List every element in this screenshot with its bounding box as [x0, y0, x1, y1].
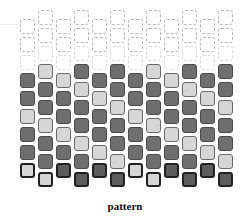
dark-cell: [182, 64, 197, 79]
light-cell: [164, 73, 179, 88]
dark-cell: [182, 100, 197, 115]
dark-cell: [20, 145, 35, 160]
dark-cell: [74, 154, 89, 169]
light-cell: [74, 82, 89, 97]
dashed-placeholder-cell: [146, 28, 161, 43]
light-cell: [164, 127, 179, 142]
dark-cell: [56, 91, 71, 106]
dark-cell: [92, 73, 107, 88]
dark-cell: [218, 82, 233, 97]
dark-cell: [74, 172, 89, 187]
light-cell: [56, 127, 71, 142]
light-cell: [200, 145, 215, 160]
light-cell: [92, 91, 107, 106]
dark-cell: [128, 91, 143, 106]
dark-cell: [38, 154, 53, 169]
dashed-placeholder-cell: [200, 55, 215, 70]
dark-cell: [92, 109, 107, 124]
dark-cell: [218, 172, 233, 187]
dark-cell: [110, 136, 125, 151]
dashed-placeholder-cell: [56, 55, 71, 70]
dashed-placeholder-cell: [38, 28, 53, 43]
dark-cell: [110, 64, 125, 79]
light-cell: [182, 82, 197, 97]
dashed-placeholder-cell: [74, 46, 89, 61]
dark-cell: [200, 127, 215, 142]
dashed-placeholder-cell: [92, 37, 107, 52]
dashed-placeholder-cell: [218, 46, 233, 61]
dashed-placeholder-cell: [146, 46, 161, 61]
dark-cell: [110, 82, 125, 97]
dark-cell: [128, 73, 143, 88]
pattern-grid: [0, 0, 250, 200]
dashed-placeholder-cell: [92, 55, 107, 70]
dark-cell: [56, 163, 71, 178]
dashed-placeholder-cell: [164, 19, 179, 34]
dark-cell: [146, 100, 161, 115]
dashed-placeholder-cell: [110, 46, 125, 61]
dashed-placeholder-cell: [20, 55, 35, 70]
dark-cell: [110, 118, 125, 133]
dashed-placeholder-cell: [110, 10, 125, 25]
dashed-placeholder-cell: [74, 28, 89, 43]
light-cell: [146, 172, 161, 187]
light-cell: [38, 118, 53, 133]
light-cell: [182, 136, 197, 151]
light-cell: [200, 91, 215, 106]
dashed-placeholder-cell: [38, 10, 53, 25]
dark-cell: [200, 73, 215, 88]
light-cell: [20, 109, 35, 124]
dashed-placeholder-cell: [182, 46, 197, 61]
dark-cell: [74, 64, 89, 79]
dark-cell: [38, 82, 53, 97]
dark-cell: [74, 118, 89, 133]
light-cell: [128, 163, 143, 178]
dashed-placeholder-cell: [164, 37, 179, 52]
dark-cell: [164, 145, 179, 160]
dark-cell: [38, 136, 53, 151]
dashed-placeholder-cell: [128, 37, 143, 52]
dark-cell: [38, 100, 53, 115]
dashed-placeholder-cell: [20, 19, 35, 34]
dashed-placeholder-cell: [200, 19, 215, 34]
light-cell: [38, 172, 53, 187]
dashed-placeholder-cell: [92, 19, 107, 34]
dark-cell: [128, 127, 143, 142]
light-cell: [56, 73, 71, 88]
dark-cell: [164, 91, 179, 106]
dark-cell: [218, 136, 233, 151]
light-cell: [146, 64, 161, 79]
dark-cell: [20, 91, 35, 106]
dark-cell: [182, 154, 197, 169]
light-cell: [128, 109, 143, 124]
dark-cell: [146, 154, 161, 169]
dashed-placeholder-cell: [20, 37, 35, 52]
light-cell: [38, 64, 53, 79]
dark-cell: [92, 127, 107, 142]
light-cell: [146, 118, 161, 133]
dark-cell: [74, 100, 89, 115]
dashed-placeholder-cell: [56, 37, 71, 52]
dark-cell: [182, 118, 197, 133]
dark-cell: [200, 109, 215, 124]
dashed-placeholder-cell: [74, 10, 89, 25]
dark-cell: [56, 109, 71, 124]
dashed-placeholder-cell: [56, 19, 71, 34]
light-cell: [110, 154, 125, 169]
faint-guide-line: [0, 24, 18, 25]
dark-cell: [218, 118, 233, 133]
dashed-placeholder-cell: [128, 19, 143, 34]
dark-cell: [92, 163, 107, 178]
dashed-placeholder-cell: [146, 10, 161, 25]
dark-cell: [164, 109, 179, 124]
dark-cell: [20, 127, 35, 142]
dashed-placeholder-cell: [218, 28, 233, 43]
dashed-placeholder-cell: [218, 10, 233, 25]
dark-cell: [110, 172, 125, 187]
dashed-placeholder-cell: [200, 37, 215, 52]
dark-cell: [146, 82, 161, 97]
light-cell: [218, 154, 233, 169]
dark-cell: [218, 64, 233, 79]
dark-cell: [164, 163, 179, 178]
dark-cell: [56, 145, 71, 160]
